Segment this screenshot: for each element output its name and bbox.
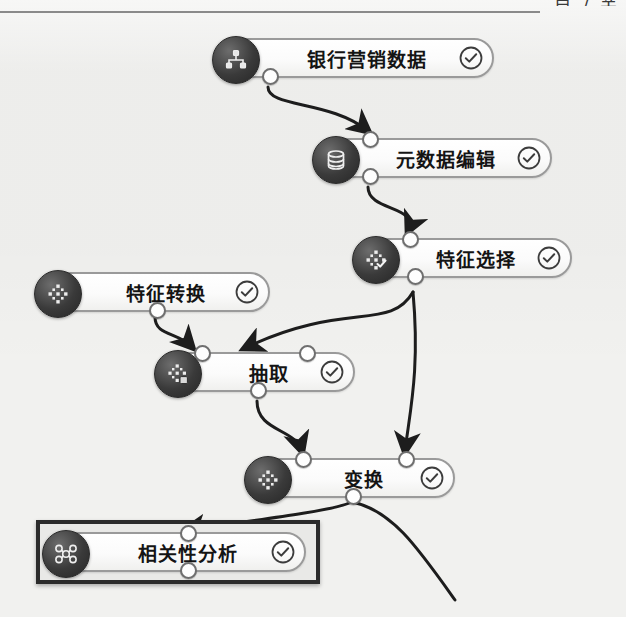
check-circle-icon [234,279,260,305]
node-label: 银行营销数据 [220,45,492,72]
correlation-icon [42,530,90,578]
input-port[interactable] [362,131,379,148]
output-port[interactable] [250,382,267,399]
node-extract[interactable]: 抽取 [160,352,355,392]
edge-extract-to-transform [257,401,302,451]
output-port[interactable] [407,268,424,285]
node-metadata-edit[interactable]: 元数据编辑 [318,138,552,178]
check-circle-icon [319,359,345,385]
data-source-icon [212,36,260,84]
check-circle-icon [536,245,562,271]
output-port[interactable] [345,488,362,505]
output-port[interactable] [180,562,197,579]
node-transform[interactable]: 变换 [250,458,455,498]
input-port-right[interactable] [299,345,316,362]
edge-bank-to-metadata [268,87,368,131]
output-port[interactable] [149,302,166,319]
node-feature-selection[interactable]: 特征选择 [358,238,572,278]
edge-featsel-to-extract [245,292,413,348]
edge-metadata-to-feature-selection [368,187,410,231]
node-feature-transform[interactable]: 特征转换 [40,272,270,312]
check-circle-icon [458,45,484,71]
check-circle-icon [270,539,296,565]
feature-select-icon [352,236,400,284]
check-circle-icon [516,145,542,171]
check-circle-icon [419,465,445,491]
edge-feattrans-to-extract [155,317,192,347]
input-port-left[interactable] [295,451,312,468]
edge-featsel-to-transform [405,292,415,451]
node-bank-marketing-data[interactable]: 银行营销数据 [218,38,494,78]
output-port[interactable] [362,168,379,185]
database-icon [312,136,360,184]
output-port[interactable] [262,68,279,85]
transform-icon [244,456,292,504]
input-port[interactable] [402,231,419,248]
edge-transform-to-offscreen [352,502,455,600]
node-correlation-analysis[interactable]: 相关性分析 [48,532,306,572]
input-port-right[interactable] [398,451,415,468]
workflow-canvas[interactable]: 自 / 关 [0,0,626,617]
input-port-left[interactable] [194,345,211,362]
feature-transform-icon [34,270,82,318]
input-port[interactable] [180,525,197,542]
